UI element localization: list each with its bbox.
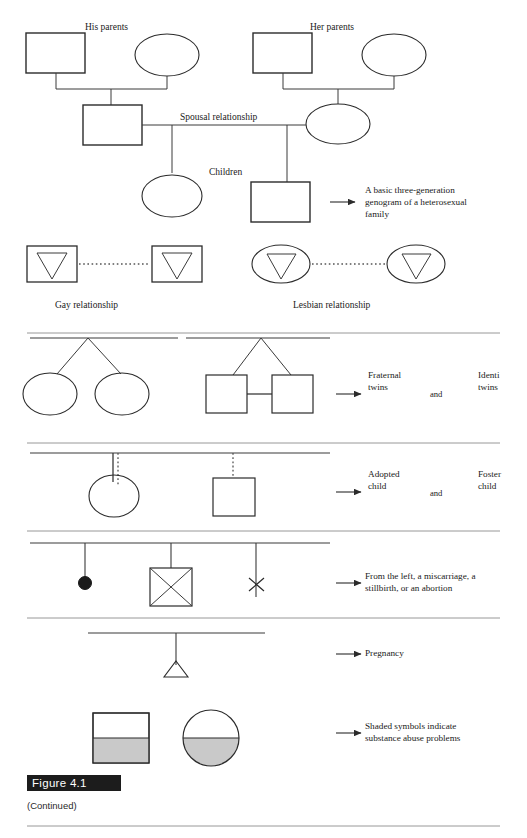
caption-fraternal-twins: Fraternal twins [368,370,401,394]
miscarriage-symbol [79,577,92,590]
caption-line: From the left, a miscarriage, a [365,571,475,583]
label-spousal-relationship: Spousal relationship [180,112,257,124]
caption-line: genogram of a heterosexual [365,197,467,209]
caption-line: Adopted [368,469,400,481]
label-her-parents: Her parents [310,22,354,34]
caption-line: stillbirth, or an abortion [365,583,475,595]
genogram-diagram-canvas [0,0,527,838]
adopted-foster-group [30,453,330,517]
shaded-symbols-group [93,710,239,766]
caption-line: substance abuse problems [365,733,460,745]
label-gay-relationship: Gay relationship [55,300,118,312]
gay-relationship-group [27,246,202,282]
caption-identical-twins: Identi twins [478,370,499,394]
his-parents-group [26,33,199,105]
caption-line: Fraternal [368,370,401,382]
caption-line: family [365,209,467,221]
conjunction-adopted-foster: and [430,488,442,498]
caption-line: child [368,481,400,493]
caption-line: twins [478,382,499,394]
figure-continued-label: (Continued) [27,800,77,811]
fraternal-twins-group [23,338,178,415]
caption-line: Identi [478,370,499,382]
couple-generation-group [83,104,370,145]
label-his-parents: His parents [85,22,128,34]
conjunction-twins: and [430,389,442,399]
caption-foster-child: Foster child [478,469,501,493]
caption-pregnancy: Pregnancy [365,648,404,660]
pregnancy-group [88,633,265,677]
caption-line: Shaded symbols indicate [365,721,460,733]
genogram-figure: His parents Her parents Spousal relation… [0,0,527,838]
identical-twins-group [186,338,330,413]
caption-pregnancy-loss: From the left, a miscarriage, a stillbir… [365,571,475,595]
lesbian-relationship-group [252,245,445,283]
caption-line: Foster [478,469,501,481]
caption-line: twins [368,382,401,394]
caption-shaded-symbols: Shaded symbols indicate substance abuse … [365,721,460,745]
her-parents-group [253,33,426,104]
figure-banner: Figure 4.1 [27,775,121,791]
shaded-square-fill [94,738,149,762]
caption-adopted-child: Adopted child [368,469,400,493]
caption-three-generation: A basic three-generation genogram of a h… [365,185,467,220]
caption-line: A basic three-generation [365,185,467,197]
label-children: Children [209,167,242,179]
caption-line: Pregnancy [365,648,404,660]
label-lesbian-relationship: Lesbian relationship [293,300,370,312]
caption-line: child [478,481,501,493]
pregnancy-loss-group [30,543,330,606]
